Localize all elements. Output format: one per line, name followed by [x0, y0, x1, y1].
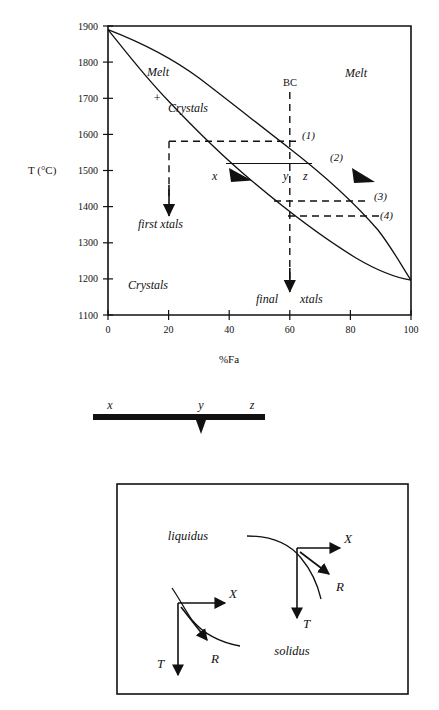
solidus-direction-arrowhead	[229, 168, 252, 182]
label-step-1: (1)	[302, 129, 315, 142]
label-point-y: y	[282, 169, 289, 183]
lever-fulcrum	[196, 420, 206, 434]
y-tick-1700: 1700	[78, 93, 98, 104]
y-tick-1400: 1400	[78, 201, 98, 212]
inset-solidus-r-label: R	[210, 651, 219, 666]
label-step-4: (4)	[380, 209, 393, 222]
y-tick-1300: 1300	[78, 237, 98, 248]
vector-inset-box: X T R liquidus X T R solidus	[0, 480, 439, 710]
phase-diagram: 1900 1800 1700 1600 1500 1400 1300 1200 …	[0, 0, 439, 380]
x-axis-title: %Fa	[219, 353, 239, 365]
y-tick-1200: 1200	[78, 273, 98, 284]
label-point-z: z	[302, 169, 308, 183]
x-tick-60: 60	[285, 324, 295, 335]
label-final: final	[256, 292, 279, 306]
label-melt-upper: Melt	[146, 65, 170, 79]
inset-solidus-t-label: T	[157, 656, 165, 671]
inset-liquidus-r-label: R	[335, 579, 344, 594]
label-point-x: x	[211, 169, 218, 183]
figure-root: 1900 1800 1700 1600 1500 1400 1300 1200 …	[0, 0, 439, 710]
inset-solidus-label: solidus	[274, 644, 310, 658]
label-first-xtals: first xtals	[138, 217, 183, 231]
inset-liquidus-x-label: X	[343, 531, 353, 546]
label-xtals: xtals	[299, 292, 323, 306]
x-tick-100: 100	[404, 324, 419, 335]
label-step-2: (2)	[330, 151, 343, 164]
label-plus-sign: +	[153, 91, 161, 105]
y-axis-tick-labels: 1900 1800 1700 1600 1500 1400 1300 1200 …	[78, 21, 98, 321]
inset-liquidus-label: liquidus	[168, 529, 208, 543]
y-tick-1600: 1600	[78, 129, 98, 140]
lever-rule-diagram: x y z	[0, 390, 439, 460]
inset-liquidus-t-label: T	[303, 616, 311, 631]
lever-label-z: z	[249, 398, 255, 412]
label-crystals-upper: Crystals	[168, 101, 208, 115]
x-tick-0: 0	[106, 324, 111, 335]
lever-label-y: y	[197, 398, 204, 412]
x-tick-20: 20	[164, 324, 174, 335]
y-tick-1100: 1100	[78, 310, 98, 321]
x-axis-tick-labels: 0 20 40 60 80 100	[106, 324, 419, 335]
x-tick-40: 40	[224, 324, 234, 335]
label-melt-right: Melt	[344, 66, 368, 80]
inset-solidus-x-label: X	[228, 586, 238, 601]
inset-liquidus-curve	[247, 536, 321, 599]
liquidus-direction-arrowhead	[352, 168, 375, 183]
y-tick-1800: 1800	[78, 57, 98, 68]
label-step-3: (3)	[374, 190, 387, 203]
y-axis-title: T (°C)	[28, 164, 57, 177]
bulk-composition-label: BC	[283, 77, 297, 88]
label-crystals-lower: Crystals	[128, 278, 168, 292]
y-tick-1900: 1900	[78, 21, 98, 32]
inset-solidus-r-arrow	[181, 607, 207, 640]
lever-bar	[93, 414, 265, 420]
lever-label-x: x	[106, 398, 113, 412]
y-tick-1500: 1500	[78, 165, 98, 176]
x-tick-80: 80	[345, 324, 355, 335]
